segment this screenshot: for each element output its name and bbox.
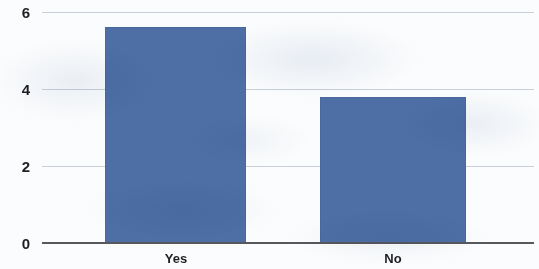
y-tick-label-4: 4 bbox=[2, 82, 30, 97]
plot-area bbox=[0, 0, 539, 269]
bar-no bbox=[320, 97, 466, 243]
x-tick-label-yes: Yes bbox=[135, 252, 217, 265]
y-tick-label-2: 2 bbox=[2, 159, 30, 174]
bar-chart: 6 4 2 0 Yes No bbox=[0, 0, 539, 269]
x-axis-line bbox=[42, 242, 534, 244]
x-tick-label-no: No bbox=[352, 252, 434, 265]
y-tick-label-6: 6 bbox=[2, 5, 30, 20]
bar-yes bbox=[105, 27, 246, 243]
y-tick-label-0: 0 bbox=[2, 236, 30, 251]
gridline-6 bbox=[42, 12, 534, 13]
